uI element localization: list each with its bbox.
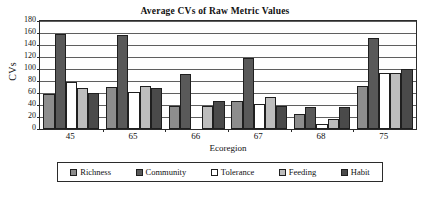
chart-legend: RichnessCommunityToleranceFeedingHabit xyxy=(57,162,383,182)
y-axis-tick-labels: 020406080100120140160180 xyxy=(10,20,36,130)
bar-group xyxy=(103,21,166,129)
chart-figure: Average CVs of Raw Metric Values CVs 020… xyxy=(0,0,430,198)
bar-feeding-65 xyxy=(140,86,151,129)
bar-community-66 xyxy=(180,74,191,129)
bar-habit-45 xyxy=(88,93,99,129)
legend-swatch-icon xyxy=(279,169,286,176)
legend-swatch-icon xyxy=(70,169,77,176)
bar-richness-66 xyxy=(169,106,180,129)
legend-item-richness[interactable]: Richness xyxy=(70,167,111,177)
bar-richness-75 xyxy=(357,86,368,129)
bar-community-68 xyxy=(305,107,316,129)
x-axis-tick-label-68: 68 xyxy=(290,131,353,142)
bar-richness-68 xyxy=(294,114,305,129)
y-axis-tick-label: 0 xyxy=(10,124,36,132)
bar-community-67 xyxy=(243,58,254,129)
bar-group xyxy=(165,21,228,129)
legend-label: Tolerance xyxy=(221,167,254,177)
bar-habit-67 xyxy=(276,106,287,129)
legend-swatch-icon xyxy=(136,169,143,176)
y-axis-tick-label: 20 xyxy=(10,112,36,120)
bar-habit-65 xyxy=(151,88,162,129)
legend-item-tolerance[interactable]: Tolerance xyxy=(211,167,254,177)
y-axis-tick-label: 160 xyxy=(10,28,36,36)
x-axis-title: Ecoregion xyxy=(39,143,417,154)
x-axis-tick-label-67: 67 xyxy=(227,131,290,142)
legend-label: Community xyxy=(146,167,187,177)
bar-tolerance-75 xyxy=(379,73,390,129)
bar-tolerance-67 xyxy=(254,104,265,129)
legend-label: Habit xyxy=(351,167,370,177)
bar-richness-67 xyxy=(231,101,242,129)
x-axis-tick-label-66: 66 xyxy=(164,131,227,142)
bar-feeding-45 xyxy=(77,88,88,129)
legend-label: Richness xyxy=(80,167,111,177)
bar-community-75 xyxy=(368,38,379,129)
bar-feeding-75 xyxy=(390,73,401,129)
y-axis-tick-label: 140 xyxy=(10,40,36,48)
bar-tolerance-65 xyxy=(128,92,139,129)
chart-title: Average CVs of Raw Metric Values xyxy=(0,6,430,17)
legend-item-habit[interactable]: Habit xyxy=(341,167,370,177)
bar-habit-66 xyxy=(213,101,224,129)
bar-community-45 xyxy=(55,34,66,129)
legend-item-feeding[interactable]: Feeding xyxy=(279,167,316,177)
bar-feeding-66 xyxy=(202,106,213,129)
bar-tolerance-45 xyxy=(66,82,77,129)
x-axis-tick-label-45: 45 xyxy=(39,131,102,142)
y-axis-tick-label: 40 xyxy=(10,100,36,108)
x-axis-tick-labels: 456566676875 xyxy=(39,131,417,143)
legend-label: Feeding xyxy=(289,167,316,177)
bar-feeding-68 xyxy=(328,119,339,129)
x-axis-tick-label-75: 75 xyxy=(352,131,415,142)
bar-group xyxy=(228,21,291,129)
legend-item-community[interactable]: Community xyxy=(136,167,187,177)
bar-group xyxy=(353,21,416,129)
y-axis-tick-label: 100 xyxy=(10,64,36,72)
y-axis-tick-label: 120 xyxy=(10,52,36,60)
bar-habit-75 xyxy=(401,69,412,129)
legend-swatch-icon xyxy=(341,169,348,176)
bar-feeding-67 xyxy=(265,97,276,129)
bar-richness-45 xyxy=(43,94,54,129)
bar-community-65 xyxy=(117,35,128,129)
bar-habit-68 xyxy=(339,107,350,129)
y-axis-tick-mark xyxy=(37,129,40,130)
x-axis-tick-label-65: 65 xyxy=(102,131,165,142)
plot-area xyxy=(39,20,417,130)
bar-group xyxy=(291,21,354,129)
y-axis-tick-label: 60 xyxy=(10,88,36,96)
y-axis-tick-label: 80 xyxy=(10,76,36,84)
legend-swatch-icon xyxy=(211,169,218,176)
bar-tolerance-68 xyxy=(316,124,327,129)
bar-richness-65 xyxy=(106,87,117,129)
bar-group xyxy=(40,21,103,129)
y-axis-tick-label: 180 xyxy=(10,16,36,24)
